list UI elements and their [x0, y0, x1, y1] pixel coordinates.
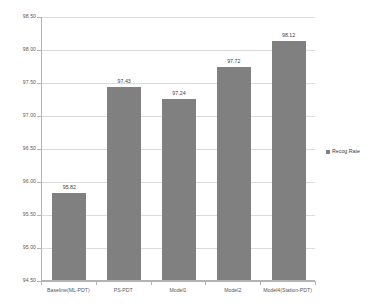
bar	[272, 41, 306, 280]
x-axis-category-label: Model4(Station-PDT)	[260, 288, 315, 293]
bar-slot: 97.43	[97, 17, 152, 280]
x-axis-tick-mark	[315, 281, 316, 285]
y-axis-tick-label: 94.50	[4, 278, 36, 283]
chart-legend: Recog Rate	[326, 149, 360, 154]
y-axis-tick-label: 97.00	[4, 113, 36, 118]
bar-value-label: 97.43	[118, 79, 131, 84]
plot-area: 95.8297.4397.2497.7298.12	[41, 17, 315, 281]
x-axis-tick-mark	[260, 281, 261, 285]
x-axis-tick-mark	[41, 281, 42, 285]
bar-value-label: 97.24	[172, 91, 185, 96]
y-axis-tick-label: 96.00	[4, 179, 36, 184]
bar	[107, 87, 141, 280]
bar-value-label: 95.82	[63, 185, 76, 190]
x-axis-category-label: Model1	[151, 288, 206, 293]
x-axis-tick-mark	[205, 281, 206, 285]
y-axis-tick-label: 97.50	[4, 80, 36, 85]
x-axis-category-label: Baseline(ML-PDT)	[41, 288, 96, 293]
y-axis-tick-label: 98.00	[4, 47, 36, 52]
x-axis-category-label: PS-PDT	[96, 288, 151, 293]
bar-value-label: 98.12	[282, 33, 295, 38]
legend-swatch-recog-rate	[326, 150, 330, 154]
y-axis-tick-label: 95.50	[4, 212, 36, 217]
gridline	[42, 281, 315, 282]
bar-slot: 95.82	[42, 17, 97, 280]
bar-slot: 97.72	[206, 17, 261, 280]
x-axis-tick-mark	[151, 281, 152, 285]
bar	[217, 67, 251, 280]
x-axis-tick-mark	[96, 281, 97, 285]
bar-chart: 94.5095.0095.5096.0096.5097.0097.5098.00…	[0, 0, 387, 307]
x-axis-category-label: Model2	[205, 288, 260, 293]
bar-value-label: 97.72	[227, 59, 240, 64]
legend-label-recog-rate: Recog Rate	[332, 149, 360, 154]
bar	[52, 193, 86, 280]
bar	[162, 99, 196, 280]
y-axis-tick-label: 95.00	[4, 245, 36, 250]
y-axis-tick-label: 98.50	[4, 14, 36, 19]
bar-slot: 97.24	[152, 17, 207, 280]
bar-slot: 98.12	[261, 17, 316, 280]
y-axis-tick-label: 96.50	[4, 146, 36, 151]
